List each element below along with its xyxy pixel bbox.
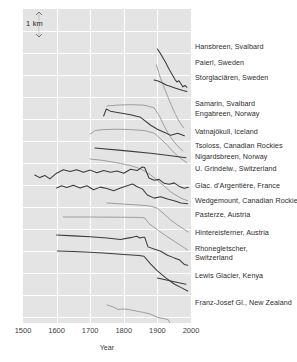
series-line — [104, 109, 185, 136]
series-label: Pasterze, Austria — [195, 210, 250, 219]
x-tick-1700: 1700 — [82, 326, 99, 335]
series-label: Nigardsbreen, Norway — [195, 152, 268, 161]
series-line — [57, 251, 187, 291]
series-line — [157, 278, 186, 284]
plot-panel — [23, 9, 191, 323]
series-label: Engabreen, Norway — [195, 109, 259, 118]
x-tick-1900: 1900 — [149, 326, 166, 335]
series-label: Tsoloss, Canadian Rockies — [195, 141, 283, 150]
series-line — [107, 105, 183, 151]
series-label: Glac. d'Argentière, France — [195, 181, 280, 190]
series-label: Rhonegletscher, Switzerland — [195, 244, 248, 262]
series-curves — [23, 9, 191, 323]
series-line — [57, 184, 188, 204]
series-line — [63, 217, 187, 250]
series-label: Wedgemount, Canadian Rockies — [195, 196, 297, 205]
x-tick-1500: 1500 — [15, 326, 32, 335]
series-label: Franz-Josef Gl., New Zealand — [195, 298, 292, 307]
series-label: Storglaciären, Sweden — [195, 73, 268, 82]
series-line — [90, 159, 187, 201]
series-label: U. Grindelw., Switzerland — [195, 164, 277, 173]
scale-bar-label: 1 km — [26, 19, 43, 28]
series-label: Hintereisferner, Austria — [195, 228, 269, 237]
series-line — [107, 305, 188, 323]
series-line — [57, 235, 188, 265]
series-line — [90, 129, 187, 162]
series-label: Hansbreen, Svalbard — [195, 42, 263, 51]
series-label: Samarin, Svalbard — [195, 99, 255, 108]
x-axis-title: Year — [23, 343, 191, 352]
x-tick-1600: 1600 — [48, 326, 65, 335]
glacier-length-change-chart: 1 km 1500 1600 1700 1800 1900 2000 Year … — [0, 0, 297, 362]
series-label-list: Hansbreen, SvalbardPaierl, SwedenStorgla… — [195, 0, 297, 362]
scale-bar: 1 km — [26, 11, 52, 38]
x-tick-1800: 1800 — [115, 326, 132, 335]
series-label: Vatnajökull, Iceland — [195, 127, 258, 136]
series-label: Lewis Glacier, Kenya — [195, 271, 263, 280]
series-line — [35, 167, 189, 188]
series-label: Paierl, Sweden — [195, 58, 244, 67]
series-line — [95, 148, 186, 158]
